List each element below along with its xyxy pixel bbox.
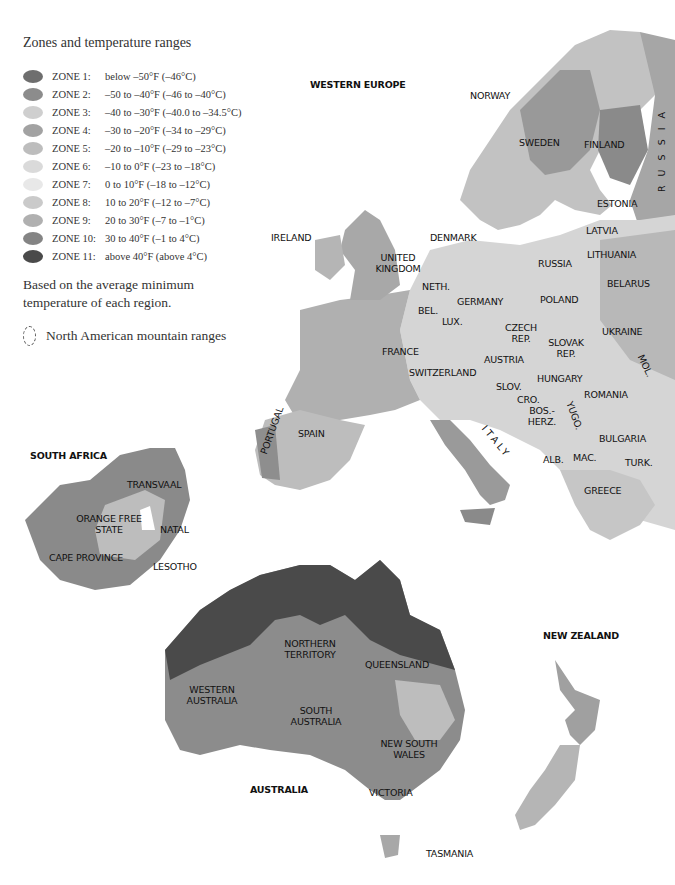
label-bosnia-herzegovina: BOS.-HERZ. [527,405,557,427]
label-natal: NATAL [160,524,189,535]
label-norway: NORWAY [470,90,510,101]
zone-name: ZONE 9: [52,215,105,226]
zone-range: –20 to –10°F (–29 to –23°C) [105,143,226,154]
mountain-range-label: North American mountain ranges [46,328,226,344]
label-germany: GERMANY [457,296,503,307]
zone-name: ZONE 5: [52,143,105,154]
label-russia: RUSSIA [538,258,572,269]
label-france: FRANCE [382,346,419,357]
legend-zone-4: ZONE 4: –30 to –20°F (–34 to –29°C) [23,122,226,138]
label-sweden: SWEDEN [519,137,560,148]
zone-range: 0 to 10°F (–18 to –12°C) [105,179,210,190]
zone-range: 10 to 20°F (–12 to –7°C) [105,197,210,208]
label-denmark: DENMARK [430,232,477,243]
label-orange-free-state: ORANGE FREE STATE [74,513,144,535]
legend-zone-1: ZONE 1: below –50°F (–46°C) [23,68,196,84]
label-cape-province: CAPE PROVINCE [49,552,123,563]
label-croatia: CRO. [517,394,540,405]
zone-10-swatch [23,232,43,245]
zone-name: ZONE 6: [52,161,105,172]
zone-range: 30 to 40°F (–1 to 4°C) [105,233,199,244]
zone-range: –10 to 0°F (–23 to –18°C) [105,161,215,172]
label-romania: ROMANIA [584,389,628,400]
mountain-range-legend: North American mountain ranges [23,326,226,346]
zone-range: –50 to –40°F (–46 to –40°C) [105,89,226,100]
label-latvia: LATVIA [586,225,618,236]
zone-3-swatch [23,106,43,119]
zone-7-swatch [23,178,43,191]
zone-name: ZONE 4: [52,125,105,136]
label-lithuania: LITHUANIA [587,249,636,260]
label-transvaal: TRANSVAAL [127,479,181,490]
zone-2-swatch [23,88,43,101]
label-northern-territory: NORTHERN TERRITORY [280,638,340,660]
zone-4-swatch [23,124,43,137]
legend-zone-10: ZONE 10: 30 to 40°F (–1 to 4°C) [23,230,199,246]
label-luxembourg: LUX. [442,316,463,327]
legend-zone-5: ZONE 5: –20 to –10°F (–29 to –23°C) [23,140,226,156]
label-switzerland: SWITZERLAND [409,367,476,378]
legend-zone-6: ZONE 6: –10 to 0°F (–23 to –18°C) [23,158,215,174]
legend-zone-8: ZONE 8: 10 to 20°F (–12 to –7°C) [23,194,210,210]
zone-name: ZONE 10: [52,233,105,244]
zone-8-swatch [23,196,43,209]
zone-name: ZONE 11: [52,251,105,262]
label-queensland: QUEENSLAND [365,659,429,670]
legend-zone-3: ZONE 3: –40 to –30°F (–40.0 to –34.5°C) [23,104,241,120]
label-slovak-rep: SLOVAK REP. [545,337,587,359]
label-ireland: IRELAND [271,232,311,243]
label-south-australia: SOUTH AUSTRALIA [288,705,344,727]
legend-zone-2: ZONE 2: –50 to –40°F (–46 to –40°C) [23,86,226,102]
region-title-south-africa: SOUTH AFRICA [30,450,107,461]
zone-range: –40 to –30°F (–40.0 to –34.5°C) [105,107,241,118]
legend-note: Based on the average minimum temperature… [23,276,243,312]
dashed-oval-icon [23,326,36,346]
label-austria: AUSTRIA [484,354,524,365]
label-netherlands: NETH. [422,281,450,292]
zone-name: ZONE 2: [52,89,105,100]
label-new-south-wales: NEW SOUTH WALES [379,738,439,760]
label-belarus: BELARUS [607,278,650,289]
zone-name: ZONE 3: [52,107,105,118]
label-lesotho: LESOTHO [153,561,197,572]
label-ukraine: UKRAINE [602,326,642,337]
region-title-australia: AUSTRALIA [250,784,308,795]
zone-name: ZONE 8: [52,197,105,208]
zone-range: –30 to –20°F (–34 to –29°C) [105,125,226,136]
label-bulgaria: BULGARIA [599,433,646,444]
label-belgium: BEL. [418,305,438,316]
label-albania: ALB. [543,454,564,465]
label-western-australia: WESTERN AUSTRALIA [184,684,240,706]
legend-zone-7: ZONE 7: 0 to 10°F (–18 to –12°C) [23,176,210,192]
zone-9-swatch [23,214,43,227]
label-estonia: ESTONIA [597,198,637,209]
label-spain: SPAIN [298,428,325,439]
zone-range: below –50°F (–46°C) [105,71,196,82]
zone-11-swatch [23,250,43,263]
label-turkey: TURK. [625,457,653,468]
label-finland: FINLAND [584,139,624,150]
zone-1-swatch [23,70,43,83]
zone-name: ZONE 1: [52,71,105,82]
region-title-western-europe: WESTERN EUROPE [310,79,406,90]
legend-title: Zones and temperature ranges [23,35,191,51]
zone-range: above 40°F (above 4°C) [105,251,207,262]
label-russia-north: R U S S I A [656,109,667,192]
new-zealand-map [515,660,600,830]
zone-name: ZONE 7: [52,179,105,190]
label-victoria: VICTORIA [369,787,413,798]
label-greece: GREECE [584,485,621,496]
zone-6-swatch [23,160,43,173]
label-hungary: HUNGARY [537,373,582,384]
label-czech-rep: CZECH REP. [504,322,538,344]
region-title-new-zealand: NEW ZEALAND [543,630,619,641]
label-slovenia: SLOV. [496,381,522,392]
label-poland: POLAND [540,294,578,305]
legend-zone-9: ZONE 9: 20 to 30°F (–7 to –1°C) [23,212,205,228]
label-united-kingdom: UNITED KINGDOM [372,252,424,274]
zone-range: 20 to 30°F (–7 to –1°C) [105,215,205,226]
zone-5-swatch [23,142,43,155]
label-macedonia: MAC. [573,452,596,463]
legend-zone-11: ZONE 11: above 40°F (above 4°C) [23,248,207,264]
label-tasmania: TASMANIA [426,848,473,859]
